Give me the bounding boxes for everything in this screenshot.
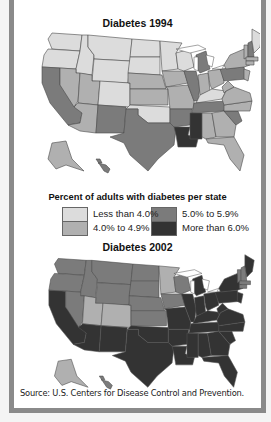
state-fl <box>202 356 237 388</box>
state-ks <box>131 311 166 326</box>
lake-lake-michigan <box>194 57 198 71</box>
state-ct <box>239 285 246 289</box>
state-ia <box>161 294 185 309</box>
state-wy <box>96 283 131 305</box>
lake-lake-erie <box>212 65 224 69</box>
legend-swatch-less-than-4 <box>62 207 88 222</box>
state-nm <box>96 105 126 133</box>
state-pa <box>215 290 239 303</box>
state-ct <box>246 61 254 65</box>
legend-label-5-to-5.9: 5.0% to 5.9% <box>182 208 239 219</box>
state-me <box>245 255 254 277</box>
state-or <box>49 273 84 292</box>
source-note: Source: U.S. Centers for Disease Control… <box>20 388 244 398</box>
state-sd <box>129 281 159 298</box>
state-pa <box>220 67 246 81</box>
state-ms <box>190 113 202 139</box>
state-ne <box>129 296 164 311</box>
legend-label-less-than-4: Less than 4.0% <box>93 208 159 219</box>
state-or <box>42 49 80 69</box>
lake-lake-erie <box>208 288 219 292</box>
state-ar <box>170 109 192 127</box>
state-wy <box>92 59 130 83</box>
state-wa <box>54 258 86 275</box>
state-sd <box>128 57 160 75</box>
figure-panel: Diabetes 1994 Percent of adults with dia… <box>9 0 266 413</box>
state-nd <box>131 264 159 281</box>
us-map-1994 <box>30 25 260 175</box>
state-me <box>252 29 260 53</box>
state-mt <box>92 260 133 284</box>
legend-swatch-more-than-6 <box>151 221 177 236</box>
state-ma <box>246 57 258 61</box>
us-map-2002 <box>30 251 260 391</box>
state-ma <box>239 281 250 285</box>
state-ak <box>54 359 88 387</box>
legend-label-more-than-6: More than 6.0% <box>182 222 249 233</box>
legend-label-4-to-4.9: 4.0% to 4.9% <box>93 222 150 233</box>
state-hi <box>96 159 110 173</box>
state-ms <box>187 333 198 357</box>
state-ia <box>162 71 188 87</box>
state-nm <box>99 326 127 352</box>
state-mt <box>88 35 132 61</box>
state-nd <box>130 39 160 57</box>
state-fl <box>206 137 244 171</box>
state-ne <box>128 73 166 89</box>
state-tn <box>192 101 226 113</box>
legend-title: Percent of adults with diabetes per stat… <box>14 192 261 202</box>
lake-lake-michigan <box>191 281 195 294</box>
state-ar <box>168 329 189 346</box>
state-co <box>101 303 131 327</box>
state-tn <box>189 322 221 333</box>
state-co <box>98 81 130 107</box>
legend-swatch-4-to-4.9 <box>62 221 88 236</box>
state-nj <box>237 292 243 303</box>
state-ak <box>48 141 84 171</box>
state-ks <box>130 89 168 105</box>
state-nj <box>244 69 250 81</box>
state-wa <box>48 33 82 51</box>
